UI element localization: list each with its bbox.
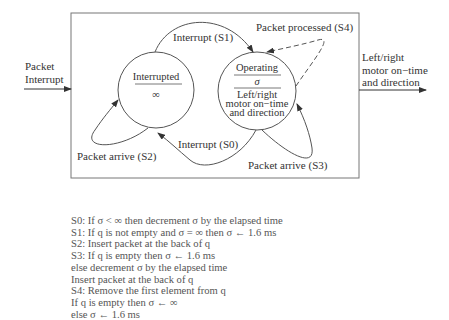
note-s0: S0: If σ < ∞ then decrement σ by the ela…: [71, 215, 283, 227]
note-s3-else: else decrement σ by the elapsed time: [71, 262, 283, 274]
transition-notes: S0: If σ < ∞ then decrement σ by the ela…: [71, 215, 283, 320]
input-label-line2: Interrupt: [25, 73, 63, 85]
note-s4-if: If q is empty then σ ← ∞: [71, 297, 283, 309]
transition-s0-label: Interrupt (S0): [178, 138, 239, 151]
state-diagram: Packet Interrupt Left/right motor on−tim…: [0, 0, 449, 215]
state-interrupted-name: Interrupted: [133, 71, 180, 82]
output-label-line2: motor on−time: [362, 64, 428, 76]
state-operating-output-line3: and direction: [229, 107, 285, 118]
note-s4-else: else σ ← 1.6 ms: [71, 309, 283, 320]
note-s4: S4: Remove the first element from q: [71, 285, 283, 297]
note-s3: S3: If q is empty then σ ← 1.6 ms: [71, 250, 283, 262]
output-label-line3: and direction: [362, 76, 420, 88]
transition-s1-label: Interrupt (S1): [173, 31, 234, 44]
transition-s2-arrow: [92, 100, 148, 145]
state-interrupted: Interrupted ∞: [118, 52, 194, 128]
transition-s3-label: Packet arrive (S3): [248, 159, 328, 172]
state-operating-value: σ: [254, 76, 260, 87]
state-operating-name: Operating: [236, 62, 279, 73]
transition-s2-label: Packet arrive (S2): [77, 150, 157, 163]
input-label-line1: Packet: [25, 60, 54, 72]
state-interrupted-value: ∞: [152, 89, 160, 100]
note-s1: S1: If q is not empty and σ = ∞ then σ ←…: [71, 227, 283, 239]
output-label-line1: Left/right: [362, 51, 404, 63]
state-operating: Operating σ Left/right motor on−time and…: [218, 52, 296, 130]
note-s3-insert: Insert packet at the back of q: [71, 274, 283, 286]
transition-s4-label: Packet processed (S4): [256, 21, 353, 34]
note-s2: S2: Insert packet at the back of q: [71, 238, 283, 250]
